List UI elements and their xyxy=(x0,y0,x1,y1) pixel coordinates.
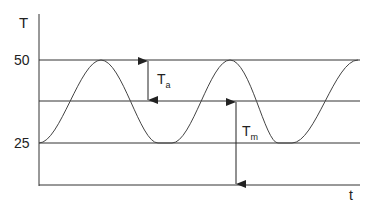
amplitude-label-sub: a xyxy=(166,80,171,90)
amplitude-label-main: T xyxy=(157,71,166,87)
mean-label-sub: m xyxy=(251,132,259,142)
diagram-canvas xyxy=(0,0,369,209)
mean-label: Tm xyxy=(242,124,258,138)
tick-label-50: 50 xyxy=(14,53,30,67)
mean-label-main: T xyxy=(242,123,251,139)
x-axis-label: t xyxy=(349,188,353,202)
tick-label-25: 25 xyxy=(14,136,30,150)
y-axis-label: T xyxy=(19,15,28,30)
amplitude-label: Ta xyxy=(157,72,171,86)
